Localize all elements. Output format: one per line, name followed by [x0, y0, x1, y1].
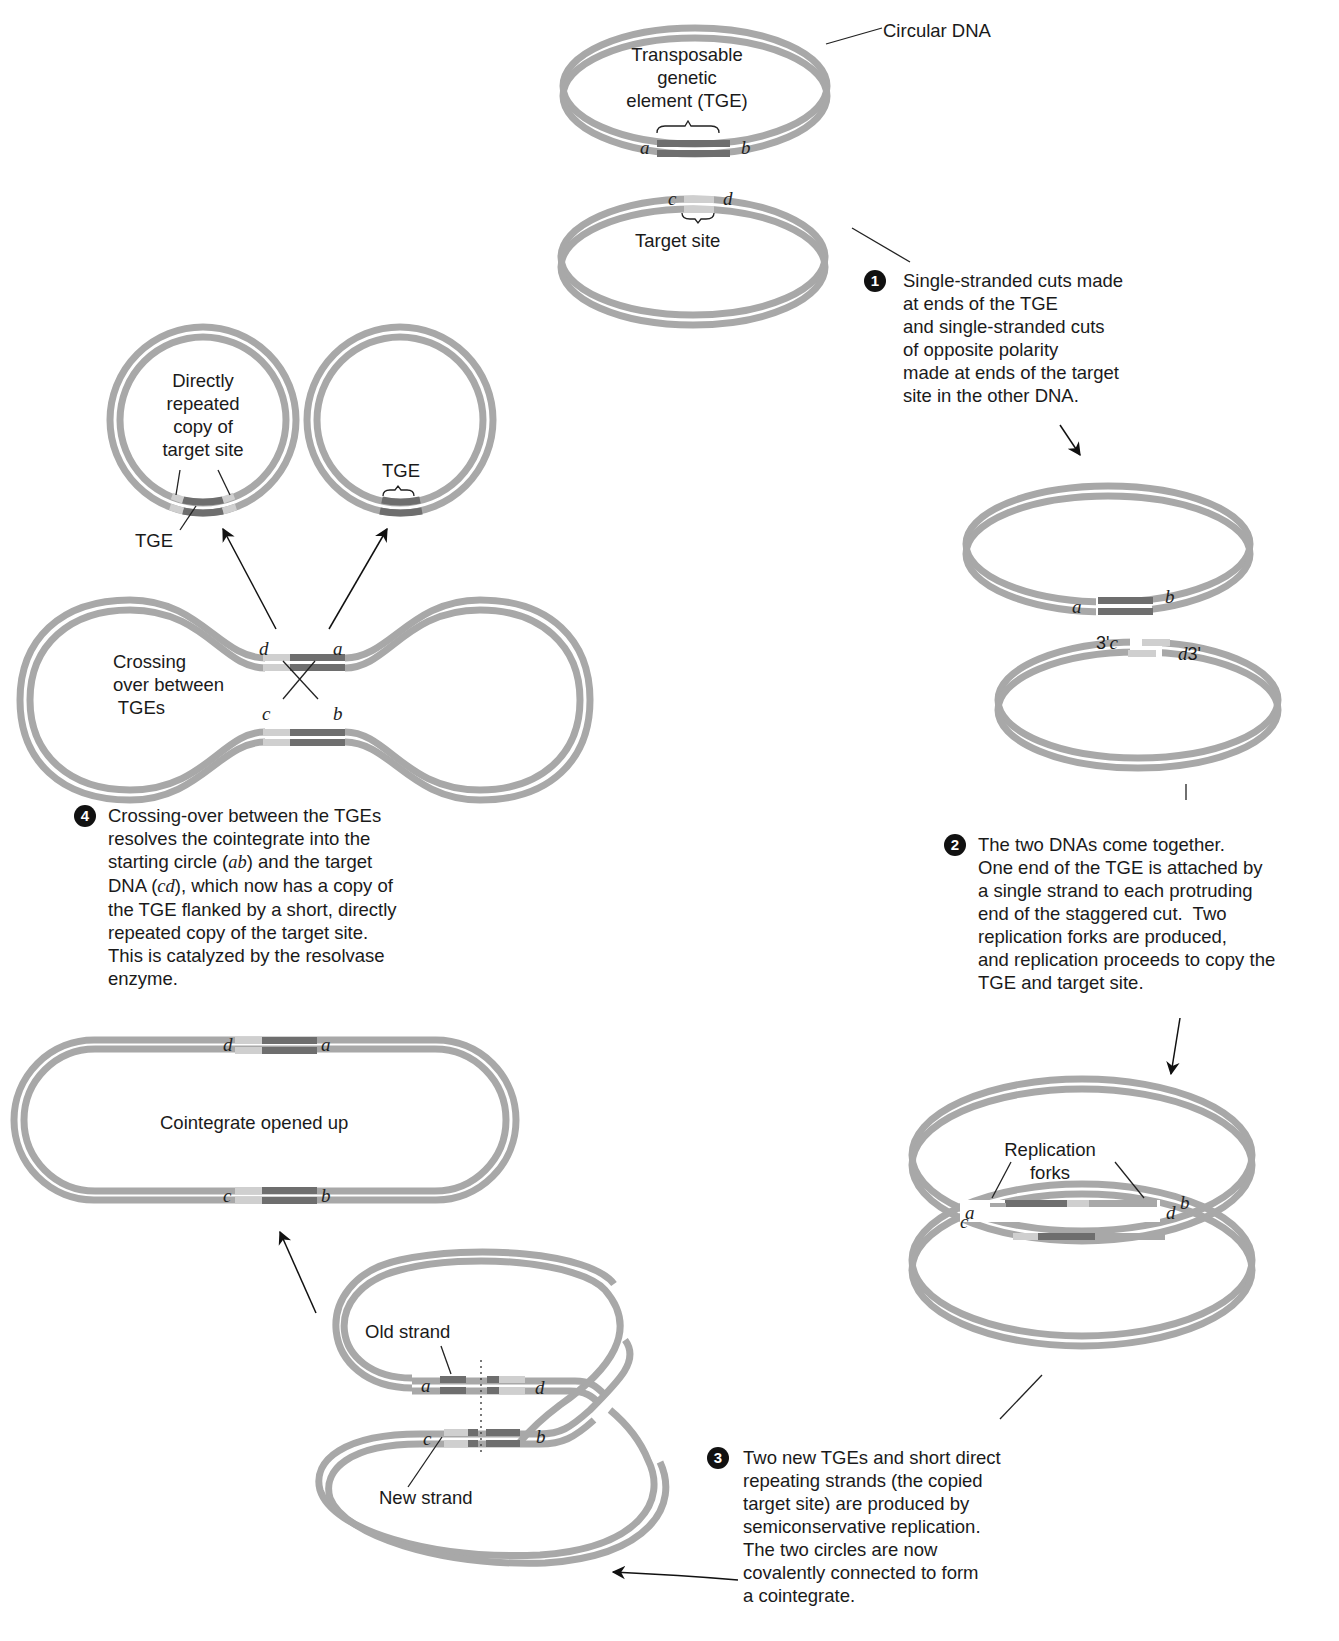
label-d: d — [1178, 643, 1188, 664]
step-3-text: Two new TGEs and short direct repeating … — [743, 1446, 1001, 1607]
svg-text:a: a — [421, 1375, 431, 1396]
crossing-over-dna: d a c b — [20, 600, 590, 800]
svg-text:a: a — [1072, 596, 1082, 617]
svg-text:b: b — [321, 1185, 331, 1206]
three-prime-right: d3' — [1178, 643, 1201, 665]
tge-label-right: TGE — [382, 459, 420, 482]
svg-text:d: d — [1166, 1202, 1176, 1223]
svg-text:b: b — [536, 1426, 546, 1447]
svg-text:b: b — [1180, 1192, 1190, 1213]
step-1-badge: 1 — [864, 270, 886, 292]
svg-text:b: b — [333, 703, 343, 724]
tge-label-left: TGE — [135, 529, 173, 552]
svg-text:d: d — [259, 638, 269, 659]
cointegrate-dna: a d c b — [319, 1252, 666, 1563]
target-site-label: Target site — [635, 229, 720, 252]
svg-text:b: b — [741, 137, 751, 158]
directly-repeated-label: Directly repeated copy of target site — [143, 369, 263, 461]
replication-forks-dna: a c b d — [912, 1079, 1252, 1346]
resolved-donor-circle — [307, 327, 493, 513]
step-2-badge: 2 — [944, 834, 966, 856]
svg-text:c: c — [960, 1211, 969, 1232]
label-c: c — [1109, 632, 1117, 653]
svg-text:a: a — [640, 137, 650, 158]
step-4-badge: 4 — [74, 805, 96, 827]
step-2-text: The two DNAs come together. One end of t… — [978, 833, 1275, 994]
svg-text:d: d — [723, 188, 733, 209]
svg-text:d: d — [223, 1034, 233, 1055]
svg-text:c: c — [668, 188, 677, 209]
svg-text:a: a — [321, 1034, 331, 1055]
svg-text:c: c — [262, 703, 271, 724]
old-strand-label: Old strand — [365, 1320, 450, 1343]
svg-text:c: c — [223, 1185, 232, 1206]
circular-dna-label: Circular DNA — [883, 19, 991, 42]
step-3-badge: 3 — [707, 1447, 729, 1469]
svg-text:c: c — [423, 1428, 432, 1449]
cointegrate-opened-label: Cointegrate opened up — [160, 1111, 348, 1134]
step-1-text: Single-stranded cuts made at ends of the… — [903, 269, 1123, 407]
replication-forks-label: Replication forks — [990, 1138, 1110, 1184]
step-4-text: Crossing-over between the TGEs resolves … — [108, 804, 397, 990]
cut-stage-dna: a b — [966, 486, 1278, 768]
new-strand-label: New strand — [379, 1486, 473, 1509]
svg-text:a: a — [333, 638, 343, 659]
crossing-over-label: Crossing over between TGEs — [113, 650, 224, 719]
circular-dna-target: c d — [561, 188, 910, 325]
three-prime-left: 3'c — [1096, 632, 1118, 654]
svg-text:d: d — [535, 1377, 545, 1398]
tge-label: Transposable genetic element (TGE) — [612, 43, 762, 112]
svg-text:b: b — [1165, 586, 1175, 607]
